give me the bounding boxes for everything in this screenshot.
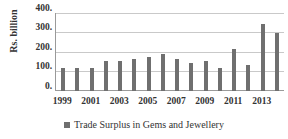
square-marker-icon <box>64 122 70 128</box>
bar <box>104 61 108 91</box>
bar <box>147 57 151 91</box>
bar <box>246 65 250 91</box>
bar <box>118 61 122 91</box>
bar <box>175 59 179 91</box>
y-axis-tick-label: 300. <box>22 22 52 33</box>
bar <box>90 68 94 91</box>
y-axis-tick-label: 400. <box>22 3 52 14</box>
y-axis-tick-labels: 400. 300. 200. 100. 0. <box>22 8 52 96</box>
x-axis-tick-label: 2013 <box>245 94 279 108</box>
bar <box>218 68 222 91</box>
bar <box>161 54 165 91</box>
x-axis-tick-labels: 19992001200320052007200920112013 <box>55 94 283 108</box>
plot-area <box>55 13 283 91</box>
bar <box>232 49 236 92</box>
bar <box>275 33 279 92</box>
bar-series-trade-surplus <box>56 13 284 91</box>
bar <box>75 68 79 91</box>
bar-chart: Rs. billion 400. 300. 200. 100. 0. 19992… <box>0 0 288 139</box>
bar <box>204 61 208 91</box>
bar <box>189 63 193 91</box>
bar <box>261 24 265 91</box>
bar <box>61 68 65 91</box>
y-axis-tick-label: 0. <box>22 81 52 92</box>
bar <box>132 59 136 91</box>
chart-legend: Trade Surplus in Gems and Jewellery <box>0 116 288 134</box>
y-axis-title: Rs. billion <box>7 0 21 67</box>
legend-item-label: Trade Surplus in Gems and Jewellery <box>74 118 224 132</box>
y-axis-tick-label: 200. <box>22 42 52 53</box>
y-axis-tick-label: 100. <box>22 61 52 72</box>
